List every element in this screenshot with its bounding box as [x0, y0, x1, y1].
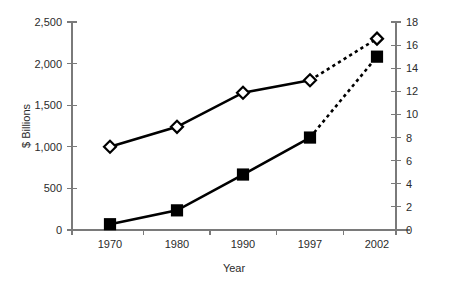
square-series-marker [172, 205, 182, 215]
y-axis-left-ticks: 05001,0001,5002,0002,500 [34, 16, 77, 236]
y2-tick-label: 6 [406, 155, 412, 167]
plot-axes [72, 22, 410, 230]
series-layer [104, 33, 383, 230]
x-axis-ticks: 19701980199019972002 [72, 230, 396, 250]
y-tick-label: 0 [56, 224, 62, 236]
diamond-series-marker [237, 87, 249, 99]
square-series-marker [105, 219, 115, 229]
diamond-series-solid-path [110, 80, 310, 147]
y2-tick-label: 12 [406, 85, 418, 97]
y-axis-right-ticks: 024681012141618 [391, 16, 418, 236]
y2-tick-label: 2 [406, 201, 412, 213]
diamond-series-dashed-path [310, 39, 377, 81]
y-tick-label: 2,500 [34, 16, 62, 28]
x-tick-label: 1980 [165, 238, 189, 250]
y-tick-label: 2,000 [34, 58, 62, 70]
square-series-dashed-path [310, 57, 377, 138]
line-chart: 05001,0001,5002,0002,500 024681012141618… [0, 0, 452, 285]
y-tick-label: 1,000 [34, 141, 62, 153]
square-series-marker [305, 133, 315, 143]
square-series-marker [372, 52, 382, 62]
y2-tick-label: 0 [406, 224, 412, 236]
y2-tick-label: 16 [406, 39, 418, 51]
square-series-solid-path [110, 138, 310, 225]
diamond-series-marker [104, 141, 116, 153]
y-tick-label: 500 [44, 182, 62, 194]
x-axis-label: Year [223, 262, 246, 274]
diamond-series-marker [304, 74, 316, 86]
y2-tick-label: 18 [406, 16, 418, 28]
y-axis-label: $ Billions [20, 103, 32, 148]
y2-tick-label: 14 [406, 62, 418, 74]
y2-tick-label: 4 [406, 178, 412, 190]
y-tick-label: 1,500 [34, 99, 62, 111]
y2-tick-label: 10 [406, 108, 418, 120]
x-tick-label: 1970 [98, 238, 122, 250]
x-tick-label: 1990 [231, 238, 255, 250]
y2-tick-label: 8 [406, 132, 412, 144]
x-tick-label: 2002 [365, 238, 389, 250]
diamond-series-marker [171, 121, 183, 133]
chart-container: 05001,0001,5002,0002,500 024681012141618… [0, 0, 452, 285]
x-tick-label: 1997 [298, 238, 322, 250]
diamond-series-marker [371, 33, 383, 45]
square-series-marker [238, 170, 248, 180]
